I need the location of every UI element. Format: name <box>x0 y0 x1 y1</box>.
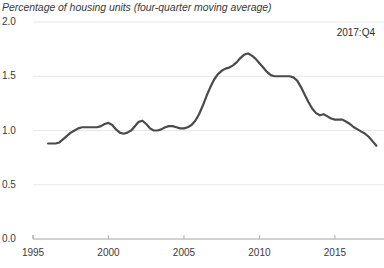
y-tick-label: 1.5 <box>2 70 28 81</box>
y-tick-label: 1.0 <box>2 125 28 136</box>
x-tick-label: 2010 <box>248 247 270 258</box>
xtick-marks-group <box>33 235 335 239</box>
y-tick-label: 0.5 <box>2 179 28 190</box>
chart-container: Percentage of housing units (four-quarte… <box>0 0 384 268</box>
chart-plot-svg <box>0 0 384 268</box>
y-tick-label: 2.0 <box>2 16 28 27</box>
data-series-group <box>48 53 376 145</box>
gridlines-group <box>33 22 384 239</box>
x-tick-label: 2015 <box>324 247 346 258</box>
y-tick-label: 0.0 <box>2 233 28 244</box>
axis-group <box>33 235 384 239</box>
data-line <box>48 53 376 145</box>
x-tick-label: 2000 <box>97 247 119 258</box>
x-tick-label: 1995 <box>22 247 44 258</box>
x-tick-label: 2005 <box>173 247 195 258</box>
